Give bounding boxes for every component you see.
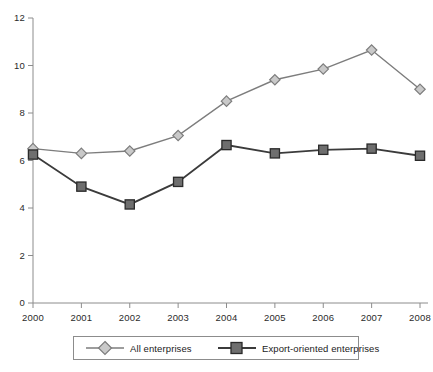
x-axis-tick-label: 2002 bbox=[110, 312, 150, 323]
x-axis-tick-label: 2001 bbox=[61, 312, 101, 323]
data-point-marker bbox=[77, 182, 86, 191]
x-axis-tick-label: 2004 bbox=[207, 312, 247, 323]
axes bbox=[28, 18, 428, 308]
x-axis-tick-label: 2008 bbox=[400, 312, 433, 323]
y-axis-tick-label: 4 bbox=[3, 202, 25, 213]
data-point-marker bbox=[270, 149, 279, 158]
y-axis-tick-label: 8 bbox=[3, 107, 25, 118]
y-axis-tick-label: 12 bbox=[3, 12, 25, 23]
legend-label-export-oriented-enterprises: Export-oriented enterprises bbox=[262, 343, 379, 354]
data-point-marker bbox=[125, 200, 134, 209]
data-point-marker bbox=[318, 64, 328, 74]
y-axis-tick-label: 6 bbox=[3, 155, 25, 166]
data-point-marker bbox=[270, 75, 280, 85]
x-axis-tick-label: 2000 bbox=[13, 312, 53, 323]
x-axis-tick-label: 2003 bbox=[158, 312, 198, 323]
legend-label-all-enterprises: All enterprises bbox=[130, 343, 192, 354]
y-axis-tick-label: 2 bbox=[3, 250, 25, 261]
legend-item-export-oriented-enterprises[interactable]: Export-oriented enterprises bbox=[216, 337, 379, 359]
data-point-marker bbox=[319, 145, 328, 154]
line-chart: 024681012 200020012002200320042005200620… bbox=[0, 0, 433, 372]
diamond-marker-icon bbox=[84, 340, 126, 356]
y-axis-tick-label: 0 bbox=[3, 297, 25, 308]
data-point-marker bbox=[367, 144, 376, 153]
x-axis-tick-label: 2006 bbox=[303, 312, 343, 323]
data-point-marker bbox=[221, 96, 231, 106]
data-point-marker bbox=[76, 148, 86, 158]
data-point-marker bbox=[125, 146, 135, 156]
x-axis-tick-label: 2005 bbox=[255, 312, 295, 323]
square-marker-icon bbox=[216, 340, 258, 356]
data-point-marker bbox=[174, 177, 183, 186]
data-point-marker bbox=[222, 140, 231, 149]
y-axis-tick-label: 10 bbox=[3, 60, 25, 71]
x-axis-tick-label: 2007 bbox=[352, 312, 392, 323]
legend-item-all-enterprises[interactable]: All enterprises bbox=[84, 337, 192, 359]
data-point-marker bbox=[415, 151, 424, 160]
chart-legend: All enterprises Export-oriented enterpri… bbox=[73, 336, 359, 360]
data-point-marker bbox=[173, 130, 183, 140]
data-series-group bbox=[28, 45, 425, 209]
data-point-marker bbox=[28, 150, 37, 159]
